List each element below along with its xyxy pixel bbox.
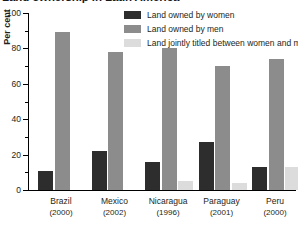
y-tick-label: 80 [0,43,21,53]
bar-joint [178,181,193,190]
y-tick-major [23,155,28,156]
y-tick-major [23,13,28,14]
chart-container: Land ownership in Latin America Per cent… [0,0,298,227]
x-axis-label-country: Nicaragua [149,196,188,206]
bar-women [199,142,214,190]
x-axis-label: Peru(2000) [241,196,298,218]
x-axis-label-year: (2000) [241,207,298,218]
bar-group [38,13,86,190]
legend-label: Land jointly titled between women and me… [147,38,298,48]
y-tick-major [23,119,28,120]
y-tick-label: 20 [0,150,21,160]
chart-legend: Land owned by womenLand owned by menLand… [124,9,298,51]
y-tick-minor [25,137,28,138]
y-tick-minor [25,102,28,103]
bar-women [92,151,107,190]
bar-men [215,66,230,190]
y-tick-minor [25,172,28,173]
bar-joint [285,167,298,190]
y-tick-label: 0 [0,185,21,195]
legend-label: Land owned by men [147,24,224,34]
bar-women [38,171,53,190]
bar-men [108,52,123,190]
y-tick-major [23,84,28,85]
y-tick-label: 60 [0,79,21,89]
x-axis-label-country: Peru [266,196,284,206]
legend-label: Land owned by women [147,10,234,20]
y-tick-minor [25,31,28,32]
legend-swatch [124,25,141,33]
x-axis-line [28,190,296,191]
y-tick-label: 40 [0,114,21,124]
y-tick-major [23,48,28,49]
bar-men [55,32,70,190]
y-tick-major [23,190,28,191]
bar-joint [232,183,247,190]
legend-item: Land jointly titled between women and me… [124,37,298,49]
x-axis-label-country: Brazil [50,196,71,206]
chart-title: Land ownership in Latin America [2,0,179,3]
legend-swatch [124,39,141,47]
legend-item: Land owned by men [124,23,298,35]
bar-women [252,167,267,190]
y-tick-minor [25,66,28,67]
legend-item: Land owned by women [124,9,298,21]
x-axis-label-country: Paraguay [203,196,239,206]
x-axis-label-country: Mexico [101,196,128,206]
bar-men [162,48,177,190]
bar-women [145,162,160,190]
y-tick-label: 100 [0,8,21,18]
legend-swatch [124,11,141,19]
bar-men [269,59,284,190]
